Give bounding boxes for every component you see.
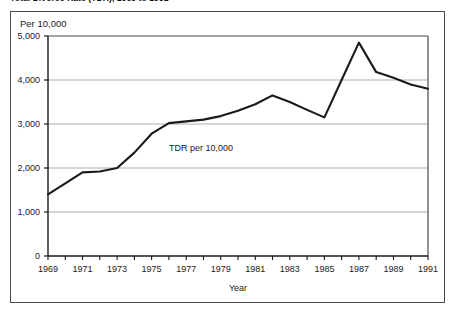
figure-container: Total Divorce Rate (TDR), 1969 to 1991 P…	[0, 0, 457, 310]
x-axis-tick-label: 1977	[176, 264, 196, 274]
series-annotation-label: TDR per 10,000	[169, 143, 233, 153]
x-axis-tick-label: 1983	[280, 264, 300, 274]
plot-background	[48, 36, 428, 256]
x-axis-tick-label: 1985	[314, 264, 334, 274]
x-axis-tick-label: 1991	[418, 264, 438, 274]
x-axis-tick-label: 1989	[383, 264, 403, 274]
y-axis-tick-label: 1,000	[17, 207, 40, 217]
y-axis-tick-label: 3,000	[17, 119, 40, 129]
y-axis-tick-label: 4,000	[17, 75, 40, 85]
y-axis-tick-label: 0	[35, 251, 40, 261]
y-axis-tick-label: 5,000	[17, 31, 40, 41]
x-axis-ticks: 1969197119731975197719791981198319851987…	[38, 256, 438, 274]
x-axis-tick-label: 1987	[349, 264, 369, 274]
y-axis-unit-label: Per 10,000	[20, 18, 66, 29]
x-axis-tick-label: 1971	[72, 264, 92, 274]
x-axis-tick-label: 1969	[38, 264, 58, 274]
x-axis-tick-label: 1973	[107, 264, 127, 274]
line-chart: Per 10,000 01,0002,0003,0004,0005,000 19…	[0, 0, 457, 310]
y-axis-ticks: 01,0002,0003,0004,0005,000	[17, 31, 48, 261]
x-axis-title: Year	[229, 283, 247, 293]
x-axis-tick-label: 1975	[142, 264, 162, 274]
y-axis-tick-label: 2,000	[17, 163, 40, 173]
x-axis-tick-label: 1981	[245, 264, 265, 274]
x-axis-tick-label: 1979	[211, 264, 231, 274]
